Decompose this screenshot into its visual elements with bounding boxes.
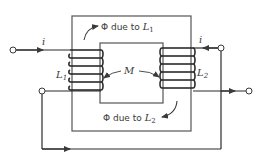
terminal-right-top — [218, 45, 224, 51]
current-label-left: i — [42, 36, 45, 47]
flux-label-bottom: Φ due to L2 — [103, 112, 156, 125]
coil-L1 — [69, 50, 103, 90]
mutual-inductance-label: M — [123, 65, 135, 76]
circuit-wires — [16, 48, 246, 149]
terminal-right-bottom — [246, 88, 252, 94]
coil-label-L1: L1 — [55, 69, 67, 82]
flux-label-top: Φ due to L1 — [101, 21, 154, 34]
coupled-coils-diagram: Φ due to L1 Φ due to L2 M L1 L2 i i — [0, 0, 268, 158]
flux-arrow-top-icon — [84, 26, 98, 40]
terminal-left-bottom — [39, 88, 45, 94]
flux-arrow-bottom-icon — [162, 101, 177, 117]
terminal-left-top — [10, 47, 16, 53]
coil-L2 — [160, 48, 195, 88]
mutual-arrow-right-icon — [139, 71, 159, 77]
current-label-right: i — [199, 34, 202, 45]
mutual-arrow-left-icon — [104, 71, 121, 78]
coil-label-L2: L2 — [196, 67, 209, 80]
